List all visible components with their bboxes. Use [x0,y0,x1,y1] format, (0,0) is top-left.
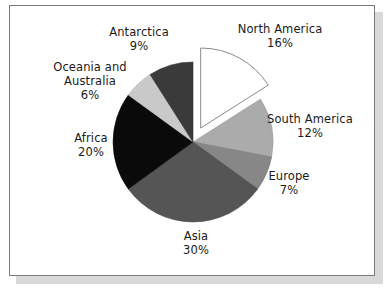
label-antarctica-pct: 9% [109,39,169,53]
label-south-america: South America 12% [267,112,353,140]
label-europe-pct: 7% [268,183,309,197]
label-north-america-name: North America [238,22,323,36]
label-africa-pct: 20% [74,145,107,159]
label-asia: Asia 30% [183,229,209,257]
label-asia-pct: 30% [183,243,209,257]
label-oceania-australia: Oceania and Australia 6% [53,60,126,102]
label-europe-name: Europe [268,169,309,183]
label-antarctica-name: Antarctica [109,25,169,39]
label-south-america-name: South America [267,112,353,126]
label-north-america-pct: 16% [238,36,323,50]
label-oceania-name-line2: Australia [53,74,126,88]
label-oceania-name-line1: Oceania and [53,60,126,74]
label-africa-name: Africa [74,131,107,145]
label-south-america-pct: 12% [267,126,353,140]
label-africa: Africa 20% [74,131,107,159]
label-asia-name: Asia [183,229,209,243]
label-antarctica: Antarctica 9% [109,25,169,53]
label-europe: Europe 7% [268,169,309,197]
label-north-america: North America 16% [238,22,323,50]
label-oceania-pct: 6% [53,88,126,102]
